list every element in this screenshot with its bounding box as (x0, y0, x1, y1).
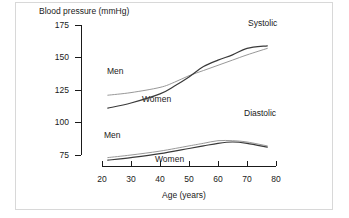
x-axis-line (102, 161, 276, 166)
series-line-systolic-men (108, 48, 267, 95)
series-line-diastolic-women (108, 142, 267, 160)
chart-figure: Blood pressure (mmHg) 175 150 125 100 75… (15, 2, 333, 210)
axis-lines (75, 25, 276, 166)
chart-canvas (16, 3, 334, 211)
series-line-systolic-women (108, 46, 267, 108)
y-axis-line (75, 25, 81, 155)
